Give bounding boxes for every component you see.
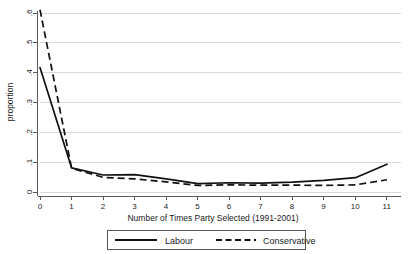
x-tick-label-3: 3 bbox=[132, 202, 137, 211]
y-tick-label-0.6: .6 bbox=[25, 9, 34, 16]
y-tick-labels: .6 .5 .4 .3 .2 .1 0 bbox=[25, 9, 34, 194]
x-tick-label-6: 6 bbox=[227, 202, 232, 211]
x-axis-title: Number of Times Party Selected (1991-200… bbox=[127, 213, 298, 223]
legend-label-labour: Labour bbox=[165, 236, 193, 246]
x-tick-label-1: 1 bbox=[69, 202, 74, 211]
y-tick-label-0: 0 bbox=[25, 189, 34, 194]
series-line-conservative bbox=[40, 10, 387, 186]
chart-container: .6 .5 .4 .3 .2 .1 0 proportion bbox=[0, 0, 413, 254]
x-tick-label-7: 7 bbox=[258, 202, 263, 211]
chart-svg: .6 .5 .4 .3 .2 .1 0 proportion bbox=[0, 0, 413, 254]
y-tick-label-0.5: .5 bbox=[25, 39, 34, 46]
y-tick-label-0.2: .2 bbox=[25, 128, 34, 135]
x-tick-label-11: 11 bbox=[383, 202, 392, 211]
y-axis-title: proportion bbox=[5, 83, 15, 122]
y-tick-label-0.1: .1 bbox=[25, 158, 34, 165]
legend-label-conservative: Conservative bbox=[263, 236, 316, 246]
x-tick-label-8: 8 bbox=[290, 202, 295, 211]
x-tick-label-5: 5 bbox=[195, 202, 200, 211]
x-tick-labels: 0 1 2 3 4 5 6 7 8 9 10 11 bbox=[38, 202, 392, 211]
series-line-labour bbox=[40, 68, 387, 184]
x-tick-label-2: 2 bbox=[101, 202, 106, 211]
data-series-group bbox=[40, 10, 387, 186]
y-tick-label-0.3: .3 bbox=[25, 99, 34, 106]
gridlines bbox=[40, 13, 401, 192]
x-tick-label-4: 4 bbox=[164, 202, 169, 211]
chart-legend: Labour Conservative bbox=[108, 231, 316, 250]
y-tick-label-0.4: .4 bbox=[25, 69, 34, 76]
x-axis bbox=[38, 196, 402, 200]
x-tick-label-9: 9 bbox=[321, 202, 326, 211]
x-tick-label-0: 0 bbox=[38, 202, 43, 211]
x-tick-label-10: 10 bbox=[351, 202, 360, 211]
